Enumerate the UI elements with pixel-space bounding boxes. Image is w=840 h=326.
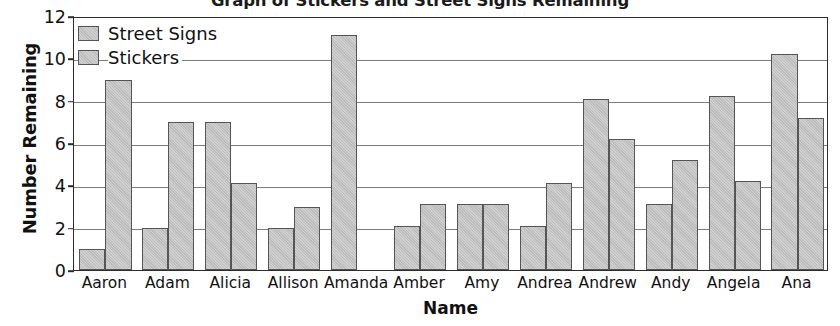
bar-ana-street-signs xyxy=(771,54,797,270)
bar-amy-street-signs xyxy=(457,204,483,270)
legend-swatch-icon xyxy=(78,26,99,41)
bar-aaron-street-signs xyxy=(79,249,105,270)
x-axis-label-amber: Amber xyxy=(393,274,444,292)
bar-allison-stickers xyxy=(294,207,320,271)
bar-andrea-street-signs xyxy=(520,226,546,270)
x-axis-title: Name xyxy=(73,298,828,318)
bar-andy-stickers xyxy=(672,160,698,270)
legend-swatch-icon xyxy=(78,50,99,65)
x-axis-label-amy: Amy xyxy=(465,274,500,292)
x-axis-label-aaron: Aaron xyxy=(82,274,127,292)
x-axis-label-adam: Adam xyxy=(145,274,190,292)
bar-aaron-stickers xyxy=(105,80,131,271)
legend-item-stickers: Stickers xyxy=(78,46,220,69)
bar-angela-street-signs xyxy=(709,96,735,270)
x-axis-label-andrew: Andrew xyxy=(579,274,638,292)
bar-amber-street-signs xyxy=(394,226,420,270)
x-axis-label-andy: Andy xyxy=(651,274,690,292)
y-axis-tick-label: 10 xyxy=(0,49,66,69)
y-axis-tick-label: 4 xyxy=(0,176,66,196)
y-axis-tick-label: 8 xyxy=(0,92,66,112)
bar-adam-street-signs xyxy=(142,228,168,270)
bar-amanda-street-signs xyxy=(331,35,357,270)
bar-allison-street-signs xyxy=(268,228,294,270)
bar-adam-stickers xyxy=(168,122,194,270)
legend-label: Stickers xyxy=(108,49,182,67)
bar-chart-figure: Graph of Stickers and Street Signs Remai… xyxy=(0,0,840,326)
legend-label: Street Signs xyxy=(108,25,220,43)
legend-item-street-signs: Street Signs xyxy=(78,22,220,45)
x-axis-label-alicia: Alicia xyxy=(210,274,252,292)
x-axis-label-andrea: Andrea xyxy=(517,274,572,292)
bar-ana-stickers xyxy=(798,118,824,270)
bar-amy-stickers xyxy=(483,204,509,270)
chart-title: Graph of Stickers and Street Signs Remai… xyxy=(0,0,840,10)
bar-andrew-street-signs xyxy=(583,99,609,270)
bar-andrea-stickers xyxy=(546,183,572,270)
y-axis-tick-label: 2 xyxy=(0,219,66,239)
y-axis-tick-label: 0 xyxy=(0,261,66,281)
bar-andy-street-signs xyxy=(646,204,672,270)
bar-amber-stickers xyxy=(420,204,446,270)
x-axis-label-amanda: Amanda xyxy=(324,274,388,292)
x-axis-label-ana: Ana xyxy=(782,274,812,292)
bar-alicia-stickers xyxy=(231,183,257,270)
chart-legend: Street SignsStickers xyxy=(78,22,220,70)
x-axis-label-angela: Angela xyxy=(707,274,761,292)
y-axis-tick-label: 6 xyxy=(0,134,66,154)
x-axis-label-allison: Allison xyxy=(268,274,319,292)
y-axis-tick-label: 12 xyxy=(0,7,66,27)
bar-alicia-street-signs xyxy=(205,122,231,270)
bar-angela-stickers xyxy=(735,181,761,270)
bar-andrew-stickers xyxy=(609,139,635,270)
